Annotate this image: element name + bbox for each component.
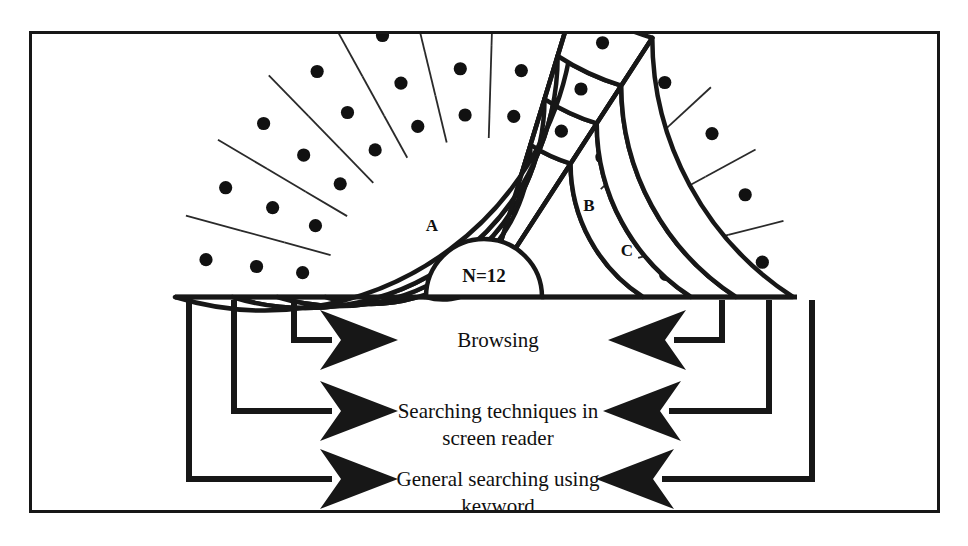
respondent-dot: [297, 148, 310, 161]
respondent-dot: [458, 108, 471, 121]
respondent-dot: [596, 36, 609, 49]
respondent-dot: [257, 117, 270, 130]
cell-divider: [425, 52, 436, 96]
figure-canvas: A B C N=12 Browsing Searching techniques…: [0, 0, 968, 546]
respondent-dot: [334, 177, 347, 190]
respondent-dot: [376, 34, 389, 42]
cell-divider: [362, 76, 384, 115]
sector-label-c: C: [621, 241, 633, 260]
cell-divider: [489, 90, 490, 138]
cell-divider: [241, 231, 284, 243]
respondent-dot: [507, 110, 520, 123]
respondent-dot: [515, 64, 528, 77]
respondent-dot: [555, 125, 568, 138]
cell-divider: [218, 140, 267, 169]
respondent-dot: [199, 253, 212, 266]
respondent-dot: [266, 201, 279, 214]
respondent-dot: [574, 82, 587, 95]
cell-divider: [705, 150, 755, 177]
respondent-dot: [739, 188, 752, 201]
cell-divider: [384, 116, 407, 158]
center-total-label: N=12: [462, 265, 506, 286]
cell-divider: [335, 34, 363, 76]
cell-divider: [308, 116, 339, 148]
legend-row-searching-line1: Searching techniques in: [398, 399, 599, 423]
respondent-dot: [219, 181, 232, 194]
respondent-dot: [296, 266, 309, 279]
respondent-dot: [394, 76, 407, 89]
cell-divider: [490, 45, 491, 90]
respondent-dot: [311, 65, 324, 78]
cell-divider: [492, 34, 494, 45]
cell-divider: [306, 192, 347, 216]
legend-row-browsing-line1: Browsing: [457, 328, 539, 352]
cell-divider: [284, 242, 330, 255]
respondent-dot: [250, 260, 263, 273]
connector-group: [189, 300, 812, 479]
sector-label-a: A: [426, 216, 439, 235]
cell-divider: [411, 34, 424, 52]
sunburst-group: A B C N=12: [118, 34, 797, 311]
legend-row-searching-line2: screen reader: [442, 426, 553, 450]
cell-divider: [728, 221, 783, 235]
respondent-dot: [756, 256, 769, 269]
connector-left-searching: [234, 300, 332, 411]
cell-divider: [340, 148, 373, 182]
connector-right-browsing: [674, 300, 722, 340]
diagram-svg: A B C N=12 Browsing Searching techniques…: [32, 34, 937, 510]
connector-left-general: [189, 300, 332, 479]
cell-divider: [669, 87, 711, 126]
respondent-dot: [309, 219, 322, 232]
cell-divider: [269, 75, 309, 116]
ring-outer-sector-a: [118, 211, 184, 297]
sector-label-b: B: [583, 196, 594, 215]
legend-row-general-line1: General searching using: [397, 467, 600, 491]
legend-group: Browsing Searching techniques in screen …: [397, 328, 600, 510]
respondent-dot: [454, 62, 467, 75]
connector-right-general: [662, 300, 812, 479]
legend-row-general-line2: keyword: [461, 494, 535, 510]
cell-divider: [186, 216, 241, 231]
figure-frame: A B C N=12 Browsing Searching techniques…: [29, 31, 940, 513]
respondent-dot: [341, 106, 354, 119]
respondent-dot: [705, 127, 718, 140]
cell-divider: [435, 96, 446, 143]
respondent-dot: [369, 143, 382, 156]
respondent-dot: [658, 76, 671, 89]
respondent-dot: [411, 120, 424, 133]
cell-divider: [267, 169, 306, 192]
